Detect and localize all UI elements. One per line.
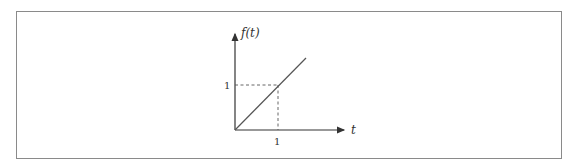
x-axis-label: t: [351, 123, 356, 137]
x-tick-label: 1: [274, 136, 280, 147]
function-line: [235, 58, 306, 130]
y-tick-label: 1: [224, 80, 230, 91]
function-plot: f(t) t 1 1: [0, 0, 575, 168]
y-axis-label: f(t): [240, 26, 260, 40]
